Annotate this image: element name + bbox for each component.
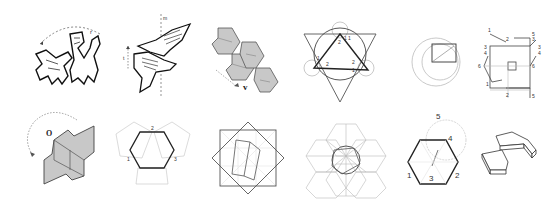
label-1: 1 [127, 156, 130, 162]
label-r: r [90, 29, 92, 35]
label-v: v [243, 82, 248, 92]
panel-overlapping-squares [210, 120, 286, 196]
label-m: m [163, 15, 167, 21]
label-1b: 1 [348, 35, 351, 41]
label-2: 2 [151, 125, 154, 131]
panel-3d-tiles [480, 132, 559, 192]
label-1: 1 [407, 171, 412, 180]
label-4b: 4 [538, 50, 541, 56]
label-2b: 2 [506, 92, 509, 98]
panel-hex-lattice [306, 120, 386, 200]
label-t: t [123, 55, 125, 61]
panel-birds: m t [120, 12, 198, 97]
label-4a: 4 [484, 50, 487, 56]
label-1b: 1 [486, 81, 489, 87]
label-2c: 2 [352, 59, 355, 65]
panel-square-edges: 1 2 3 3 3 4 4 5 6 6 1 2 5 [478, 22, 548, 100]
label-2b: 2 [326, 61, 329, 67]
panel-rotation-O: O [22, 108, 102, 188]
label-2a: 2 [338, 39, 341, 45]
label-5: 5 [436, 112, 441, 121]
panel-hexagon-pentagons: 2 1 3 [110, 112, 195, 187]
label-5b: 5 [532, 93, 535, 99]
label-2: 2 [455, 171, 460, 180]
label-5a: 5 [532, 31, 535, 37]
label-3: 3 [429, 174, 434, 183]
label-1c: 1 [317, 55, 320, 61]
label-3: 3 [174, 156, 177, 162]
label-6a: 6 [478, 63, 481, 69]
label-O: O [46, 129, 52, 138]
panel-triangle-circles: 1 2 1 1 2 1 2 [300, 20, 380, 108]
panel-hex-tiles: v [210, 24, 282, 99]
panel-hexagon-numbered: 5 4 1 3 2 [402, 106, 482, 191]
label-1d: 1 [352, 67, 355, 73]
label-6b: 6 [532, 63, 535, 69]
panel-circle-square [408, 30, 468, 90]
label-1: 1 [488, 27, 491, 33]
label-2: 2 [506, 36, 509, 42]
label-1a: 1 [344, 35, 347, 41]
panel-interlocking-animals: r [28, 18, 108, 93]
label-4: 4 [448, 134, 453, 143]
